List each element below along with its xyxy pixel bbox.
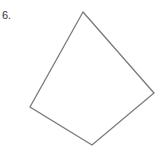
quadrilateral-figure	[0, 0, 163, 153]
quadrilateral-shape	[30, 12, 154, 145]
